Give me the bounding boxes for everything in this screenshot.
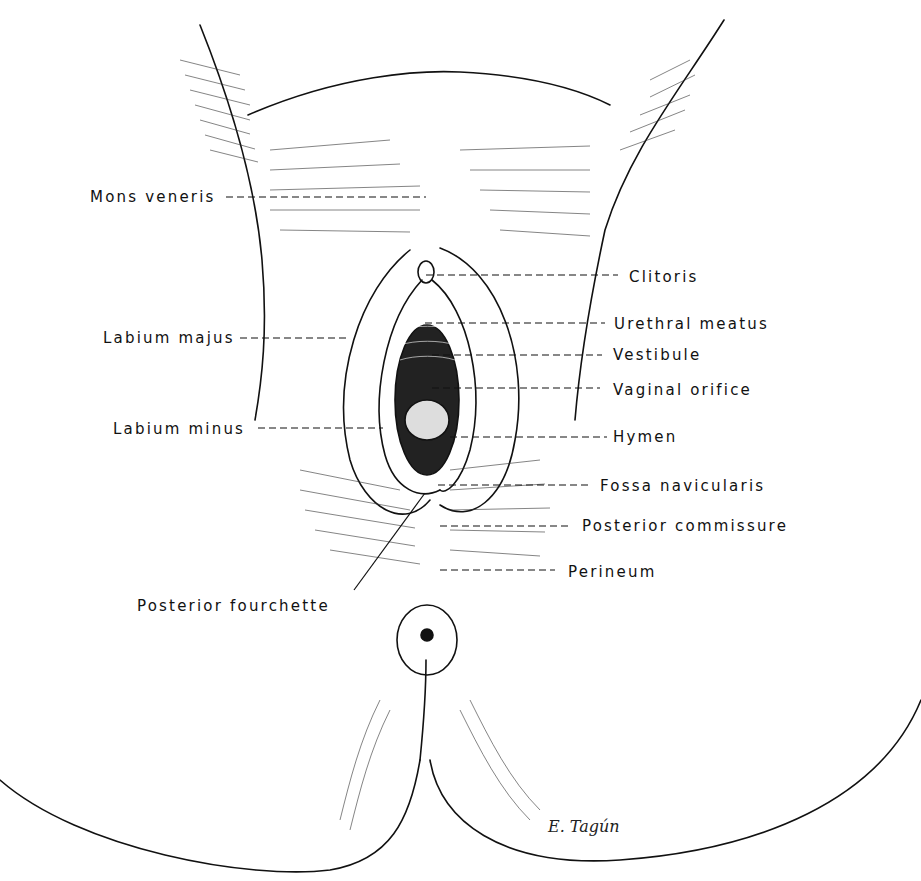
label-perineum: Perineum — [568, 563, 657, 581]
clitoris-shape — [418, 261, 434, 283]
label-vestibule: Vestibule — [613, 346, 701, 364]
abdomen-outline — [248, 72, 610, 115]
right-thigh-outline — [430, 700, 921, 861]
left-hip-outline — [200, 25, 264, 420]
label-posterior-fourchette: Posterior fourchette — [137, 597, 330, 615]
label-labium-minus: Labium minus — [113, 420, 245, 438]
label-posterior-commissure: Posterior commissure — [582, 517, 788, 535]
label-clitoris: Clitoris — [629, 268, 699, 286]
label-labium-majus: Labium majus — [103, 329, 235, 347]
label-fossa-navicularis: Fossa navicularis — [600, 477, 765, 495]
label-mons-veneris: Mons veneris — [90, 188, 216, 206]
label-vaginal-orifice: Vaginal orifice — [613, 381, 752, 399]
artist-signature: E. Tagún — [548, 817, 620, 836]
anatomical-illustration — [0, 0, 921, 881]
leader-posterior-fourchette — [354, 493, 425, 590]
left-thigh-outline — [0, 760, 420, 872]
label-urethral-meatus: Urethral meatus — [614, 315, 769, 333]
label-hymen: Hymen — [613, 428, 678, 446]
hymen-shape — [405, 400, 449, 440]
